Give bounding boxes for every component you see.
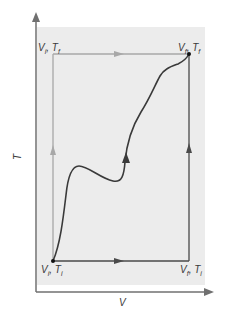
label-top-right: Vf, Tf <box>178 43 200 55</box>
initial-state-dot <box>51 259 55 263</box>
label-initial: Vi, Ti <box>41 265 62 277</box>
x-axis-arrow-icon <box>204 288 214 296</box>
y-axis-label: T <box>13 154 23 160</box>
y-axis-arrow-icon <box>32 12 40 22</box>
label-bottom-right: Vf, Ti <box>180 265 202 277</box>
x-axis-label: V <box>119 298 126 308</box>
plot-panel <box>37 27 205 285</box>
thermo-path-diagram: Vi, Tf Vf, Tf Vi, Ti Vf, Ti T V <box>0 0 229 322</box>
label-top-left: Vi, Tf <box>38 43 60 55</box>
